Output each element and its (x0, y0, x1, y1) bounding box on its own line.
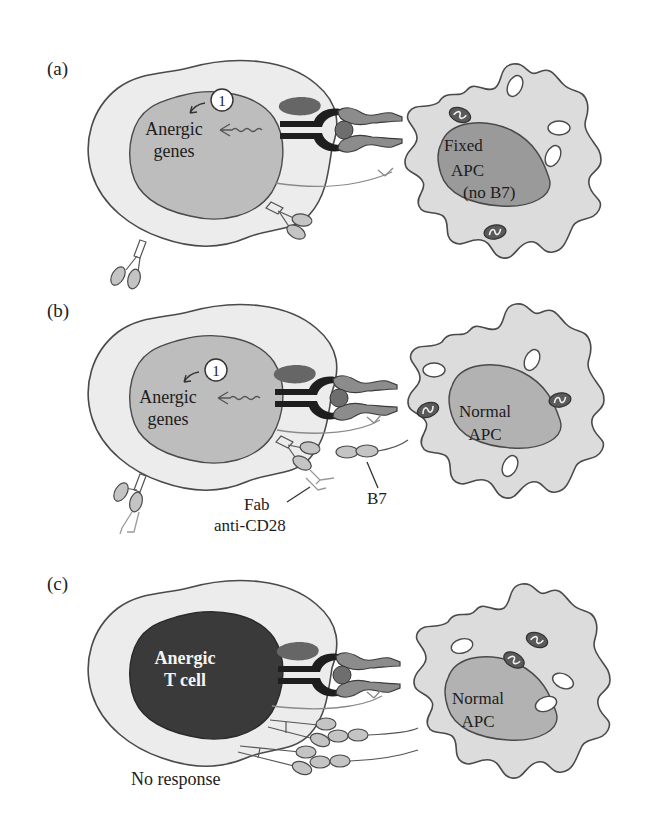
nucleus-label-line2: genes (154, 141, 195, 161)
apc-label-line1: Fixed (444, 136, 483, 155)
b7-molecule (336, 440, 408, 458)
b7-label: B7 (367, 489, 387, 508)
panel-c: (c) Anergic T cell (47, 573, 610, 789)
step-number: 1 (212, 363, 220, 379)
caption-no-response: No response (131, 769, 220, 789)
apc-label-line2: APC (451, 161, 484, 180)
nucleus-label-line1: Anergic (145, 119, 203, 139)
normal-apc (408, 304, 604, 498)
normal-apc (414, 584, 610, 778)
panel-a-label: (a) (47, 58, 68, 80)
panel-a: (a) 1 Anergic genes (47, 58, 601, 290)
anergic-nucleus (130, 612, 283, 739)
t-cell (88, 581, 337, 767)
panel-b: (b) 1 Anergic genes (47, 300, 604, 535)
panel-b-label: (b) (47, 300, 69, 322)
cd28-y-icon (367, 415, 381, 423)
panel-c-label: (c) (47, 573, 68, 595)
b7-leader-line (367, 462, 378, 488)
step-number: 1 (218, 93, 226, 109)
apc-label-line3: (no B7) (463, 183, 515, 202)
nucleus-label-line2: T cell (164, 670, 206, 690)
nucleus-label-line1: Anergic (139, 387, 197, 407)
fab-label-line2: anti-CD28 (214, 516, 286, 535)
fab-fragment-icon (120, 512, 139, 534)
apc-label-line2: APC (468, 425, 501, 444)
apc-label-line1: Normal (452, 689, 504, 708)
fab-label-line1: Fab (244, 495, 270, 514)
fixed-apc (405, 64, 601, 258)
fab-fragment-icon (306, 470, 334, 490)
apc-label-line2: APC (461, 712, 494, 731)
apc-label-line1: Normal (459, 402, 511, 421)
nucleus-label-line1: Anergic (155, 648, 216, 668)
nucleus-label-line2: genes (148, 409, 189, 429)
fab-leader-line (287, 487, 310, 502)
anergy-diagram: (a) 1 Anergic genes (0, 0, 661, 831)
